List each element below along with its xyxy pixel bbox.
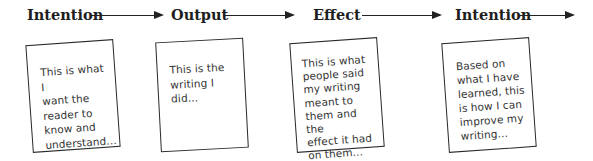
reflection-cycle-diagram: Intention Output Effect Intention This i… bbox=[0, 0, 593, 161]
card-intention: This is what I want the reader to know a… bbox=[25, 39, 120, 153]
card-output-text: This is the writing I did... bbox=[169, 59, 239, 106]
arrow-intention-to-output bbox=[90, 15, 162, 16]
stage-label-effect: Effect bbox=[313, 5, 361, 25]
stage-label-output: Output bbox=[171, 5, 228, 25]
card-effect-text: This is what people said my writing mean… bbox=[301, 53, 378, 161]
card-intention-text: This is what I want the reader to know a… bbox=[40, 60, 114, 152]
card-intention-next-text: Based on what I have learned, this is ho… bbox=[455, 55, 529, 144]
card-output: This is the writing I did... bbox=[155, 38, 249, 152]
arrow-output-to-effect bbox=[223, 15, 293, 16]
card-intention-next: Based on what I have learned, this is ho… bbox=[441, 37, 536, 153]
arrow-effect-to-intention bbox=[362, 15, 440, 16]
arrow-intention-continue bbox=[520, 15, 573, 16]
card-effect: This is what people said my writing mean… bbox=[289, 37, 384, 153]
